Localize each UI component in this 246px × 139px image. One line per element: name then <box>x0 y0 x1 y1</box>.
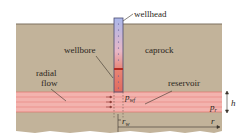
wellhead-label: wellhead <box>134 9 167 19</box>
wellbore-label: wellbore <box>64 45 96 55</box>
radial-flow-label-line2: flow <box>41 78 58 88</box>
radius-label: r <box>211 116 215 126</box>
radial-flow-label-line1: radial <box>36 68 57 78</box>
thickness-label: h <box>231 98 236 108</box>
thickness-dimension <box>226 91 229 113</box>
reservoir-label: reservoir <box>168 78 200 88</box>
caprock-label: caprock <box>145 45 174 55</box>
reservoir-layer <box>16 92 222 112</box>
reservoir-wellbore-diagram: wellhead wellbore caprock radial flow re… <box>0 0 246 139</box>
